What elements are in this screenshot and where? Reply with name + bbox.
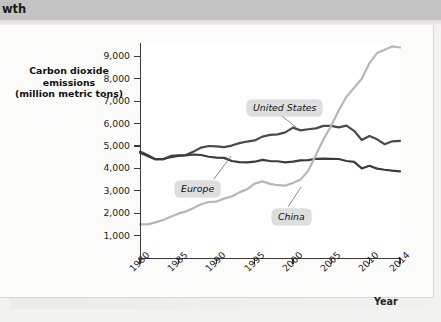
- y-tick-label: 2,000: [72, 207, 130, 218]
- callout-united-states: United States: [247, 100, 322, 116]
- plot-area: [140, 43, 400, 258]
- series-line-europe: [140, 153, 400, 172]
- y-tick-label: 1,000: [72, 230, 130, 241]
- y-tick-label: 3,000: [72, 185, 130, 196]
- y-tick: [134, 190, 140, 191]
- y-tick: [134, 145, 140, 146]
- y-tick-label: 4,000: [72, 162, 130, 173]
- y-tick-label: 5,000: [72, 140, 130, 151]
- y-axis-line: [140, 43, 141, 259]
- banner-heading: wth: [2, 2, 26, 16]
- callout-china: China: [272, 209, 311, 225]
- series-lines: [140, 43, 400, 258]
- y-tick: [134, 101, 140, 102]
- y-tick: [134, 235, 140, 236]
- series-line-united-states: [140, 126, 400, 160]
- y-tick: [134, 168, 140, 169]
- callout-europe: Europe: [175, 181, 220, 197]
- y-tick-label: 8,000: [72, 73, 130, 84]
- page-bleed-through: [10, 298, 430, 309]
- chart-page: wth Carbon dioxide emissions (million me…: [0, 0, 441, 322]
- y-tick-label: 9,000: [72, 50, 130, 61]
- y-tick-label: 6,000: [72, 118, 130, 129]
- y-tick: [134, 56, 140, 57]
- y-tick: [134, 213, 140, 214]
- y-tick-label: 7,000: [72, 95, 130, 106]
- section-banner: wth: [0, 0, 441, 20]
- y-tick: [134, 78, 140, 79]
- y-tick: [134, 123, 140, 124]
